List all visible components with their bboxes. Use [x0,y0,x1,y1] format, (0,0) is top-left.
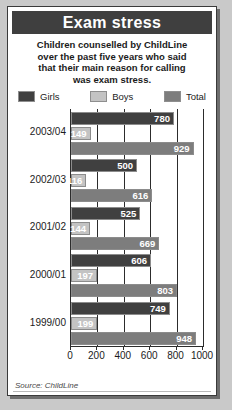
legend-item-label: Total [186,91,206,102]
bar-value-label: 948 [176,333,195,344]
x-axis-tick-label: 400 [114,350,131,361]
y-axis-category-label: 2000/01 [14,269,66,280]
bar-total: 616 [71,189,152,202]
y-axis-category-label: 2001/02 [14,221,66,232]
bar-group: 606197803 [71,252,203,300]
chart-legend: GirlsBoysTotal [18,91,206,102]
legend-item-boys: Boys [90,91,133,102]
legend-item-label: Boys [112,91,133,102]
bar-value-label: 929 [174,143,193,154]
bar-total: 669 [71,237,159,250]
x-axis-tick-label: 200 [88,350,105,361]
bar-value-label: 616 [132,190,151,201]
subtitle-line-3: that their main reason for calling [14,62,210,74]
page-title: Exam stress [63,14,162,32]
bar-group: 525144669 [71,205,203,253]
bar-boys: 199 [71,317,97,330]
legend-item-total: Total [164,91,206,102]
legend-item-label: Girls [40,91,60,102]
grid-line [203,109,204,347]
plot-area: 7801499295001166165251446696061978037491… [14,109,210,367]
subtitle-line-2: over the past five years who said [14,51,210,63]
bar-group: 500116616 [71,157,203,205]
x-axis-tick-label: 600 [141,350,158,361]
bar-value-label: 149 [71,128,90,139]
bar-value-label: 197 [77,270,96,281]
legend-swatch-icon [18,91,35,102]
y-axis-category-label: 1999/00 [14,317,66,328]
x-axis-tick-label: 0 [67,350,73,361]
bar-boys: 116 [71,174,86,187]
x-axis: 02004006008001000 [70,346,203,347]
legend-swatch-icon [90,91,107,102]
plot-canvas: 7801499295001166165251446696061978037491… [70,109,203,347]
legend-item-girls: Girls [18,91,60,102]
bar-girls: 500 [71,159,137,172]
subtitle-line-1: Children counselled by ChildLine [14,39,210,51]
bar-boys: 197 [71,269,97,282]
bar-group: 749199948 [71,300,203,348]
bar-value-label: 803 [157,285,176,296]
legend-swatch-icon [164,91,181,102]
bar-value-label: 525 [120,208,139,219]
chart-card: Exam stress Children counselled by Child… [7,6,217,396]
bar-value-label: 669 [139,238,158,249]
bar-value-label: 749 [150,303,169,314]
bar-group: 780149929 [71,109,203,157]
bar-total: 948 [71,332,196,345]
bar-value-label: 116 [67,175,85,186]
x-axis-tick-label: 1000 [191,350,213,361]
bar-girls: 749 [71,302,170,315]
bar-value-label: 606 [131,255,150,266]
bar-boys: 144 [71,222,90,235]
subtitle-line-4: was exam stress. [14,74,210,86]
source-note: Source: ChildLine [15,381,78,390]
bar-girls: 606 [71,254,151,267]
bar-boys: 149 [71,127,91,140]
x-axis-tick-label: 800 [167,350,184,361]
bar-value-label: 780 [154,113,173,124]
chart-title-bar: Exam stress [12,11,212,34]
bar-value-label: 144 [70,223,89,234]
footer-divider [13,391,211,392]
bar-girls: 525 [71,207,140,220]
bar-total: 929 [71,142,194,155]
bar-value-label: 500 [117,160,136,171]
bar-girls: 780 [71,112,174,125]
chart-subtitle: Children counselled by ChildLine over th… [14,39,210,85]
y-axis-category-label: 2002/03 [14,174,66,185]
bar-value-label: 199 [77,318,96,329]
y-axis-category-label: 2003/04 [14,126,66,137]
bar-total: 803 [71,284,177,297]
